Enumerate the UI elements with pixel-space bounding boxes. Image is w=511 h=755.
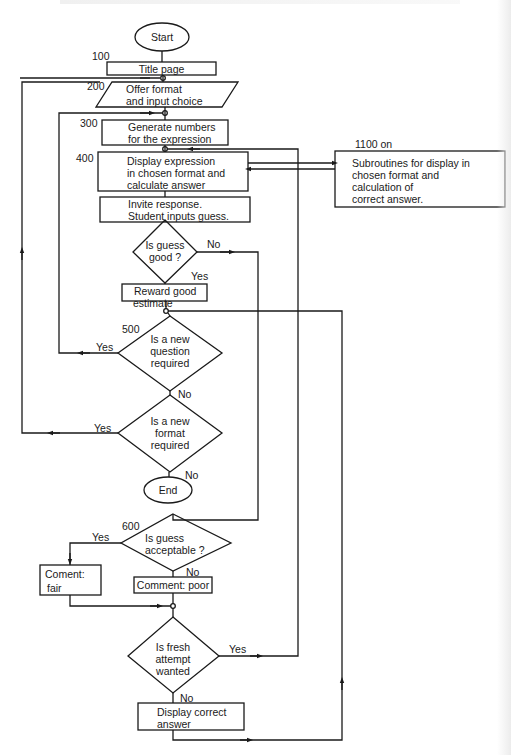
new-format-line-1: Is a new [140, 415, 200, 427]
edge-label-acceptable-yes: Yes [92, 531, 109, 543]
page-edge-shadow [497, 0, 511, 755]
reward-line-2: estimate [133, 297, 173, 309]
comment-fair-line-1: Coment: [45, 568, 85, 580]
guess-good-line-1: Is guess [135, 239, 195, 251]
start-label: Start [140, 31, 184, 43]
reward-line-1: Reward good [134, 285, 196, 297]
fresh-attempt-line-1: Is fresh [143, 641, 203, 653]
connector-circle [171, 604, 176, 609]
edge-label-good-yes: Yes [191, 270, 208, 282]
connector-circle [164, 309, 169, 314]
display-correct-line-2: answer [157, 718, 191, 730]
edge-label-fresh-yes: Yes [229, 643, 246, 655]
new-question-line-2: question [140, 345, 200, 357]
new-question-line-1: Is a new [140, 333, 200, 345]
offer-format-line-2: and input choice [126, 95, 202, 107]
comment-poor-label: Comment: poor [134, 579, 212, 591]
invite-line-1: Invite response. [128, 198, 202, 210]
step-number-300: 300 [80, 117, 98, 129]
edge-label-question-yes: Yes [96, 341, 113, 353]
edge-label-fresh-no: No [180, 692, 193, 704]
fresh-attempt-line-2: attempt [143, 653, 203, 665]
display-expr-line-3: calculate answer [127, 179, 205, 191]
subroutines-line-2: chosen format and [352, 169, 439, 181]
acceptable-line-1: Is guess [145, 532, 184, 544]
display-expr-line-1: Display expression [127, 155, 215, 167]
flowchart [0, 0, 511, 755]
edge-label-good-no: No [207, 238, 220, 250]
step-number-1100: 1100 on [355, 138, 392, 150]
fresh-attempt-line-3: wanted [143, 665, 203, 677]
guess-good-line-2: good ? [135, 251, 195, 263]
generate-line-1: Generate numbers [128, 121, 216, 133]
subroutines-line-4: correct answer. [352, 193, 423, 205]
title-page-label: Title page [107, 63, 216, 75]
offer-format-line-1: Offer format [126, 83, 182, 95]
comment-fair-line-2: fair [47, 582, 62, 594]
new-format-line-3: required [140, 439, 200, 451]
edge-label-acceptable-no: No [186, 566, 199, 578]
step-number-400: 400 [76, 152, 94, 164]
subroutines-line-3: calculation of [352, 181, 413, 193]
step-number-200: 200 [87, 80, 105, 92]
generate-line-2: for the expression [128, 133, 211, 145]
display-expr-line-2: in chosen format and [127, 167, 225, 179]
edge-label-format-no: No [185, 469, 198, 481]
end-label: End [148, 484, 188, 496]
edge-label-format-yes: Yes [94, 422, 111, 434]
acceptable-line-2: acceptable ? [145, 544, 205, 556]
edge-label-question-no: No [178, 388, 191, 400]
display-correct-line-1: Display correct [157, 706, 226, 718]
new-question-line-3: required [140, 357, 200, 369]
step-number-500: 500 [122, 323, 140, 335]
subroutines-line-1: Subroutines for display in [352, 157, 470, 169]
invite-line-2: Student inputs guess. [128, 210, 229, 222]
step-number-600: 600 [122, 520, 140, 532]
new-format-line-2: format [140, 427, 200, 439]
step-number-100: 100 [92, 50, 110, 62]
